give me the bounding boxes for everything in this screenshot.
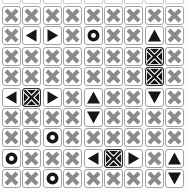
board-tile-r8c9[interactable] — [165, 149, 184, 168]
board-tile-r9c1[interactable] — [2, 169, 21, 188]
board-tile-r6c9[interactable] — [165, 108, 184, 127]
board-tile-r1c2[interactable] — [22, 6, 41, 25]
board-tile-r4c2[interactable] — [22, 67, 41, 86]
board-tile-r7c6[interactable] — [104, 128, 123, 147]
board-tile-r2c2[interactable] — [22, 26, 41, 45]
board-tile-r8c1[interactable] — [2, 149, 21, 168]
board-tile-r3c2[interactable] — [22, 47, 41, 66]
board-tile-r4c4[interactable] — [63, 67, 82, 86]
board-tile-r8c6[interactable] — [104, 149, 123, 168]
board-tile-r5c1[interactable] — [2, 88, 21, 107]
board-tile-r3c3[interactable] — [43, 47, 62, 66]
board-tile-r3c1[interactable] — [2, 47, 21, 66]
inverted-x-icon — [146, 48, 163, 65]
board-tile-r5c9[interactable] — [165, 88, 184, 107]
board-tile-r7c5[interactable] — [84, 128, 103, 147]
board-tile-r9c3[interactable] — [43, 169, 62, 188]
board-tile-r9c4[interactable] — [63, 169, 82, 188]
board-tile-r5c4[interactable] — [63, 88, 82, 107]
board-tile-r1c6[interactable] — [104, 6, 123, 25]
board-tile-r2c1[interactable] — [2, 26, 21, 45]
board-tile-r3c9[interactable] — [165, 47, 184, 66]
board-tile-r3c8[interactable] — [145, 47, 164, 66]
board-tile-r5c8[interactable] — [145, 88, 164, 107]
board-tile-r2c7[interactable] — [124, 26, 143, 45]
board-tile-r4c9[interactable] — [165, 67, 184, 86]
x-icon — [105, 68, 122, 85]
x-icon — [125, 48, 142, 65]
board-tile-r1c3[interactable] — [43, 6, 62, 25]
board-tile-r4c1[interactable] — [2, 67, 21, 86]
x-icon — [105, 129, 122, 146]
circle-icon — [44, 170, 61, 187]
board-tile-r1c4[interactable] — [63, 6, 82, 25]
board-tile-r7c4[interactable] — [63, 128, 82, 147]
board-tile-r9c6[interactable] — [104, 169, 123, 188]
board-tile-r1c5[interactable] — [84, 6, 103, 25]
board-tile-r9c8[interactable] — [145, 169, 164, 188]
board-tile-r6c2[interactable] — [22, 108, 41, 127]
board-tile-r3c5[interactable] — [84, 47, 103, 66]
board-tile-r2c5[interactable] — [84, 26, 103, 45]
board-tile-r7c2[interactable] — [22, 128, 41, 147]
board-tile-r6c6[interactable] — [104, 108, 123, 127]
x-icon — [3, 7, 20, 24]
x-icon — [64, 27, 81, 44]
board-tile-r2c3[interactable] — [43, 26, 62, 45]
board-tile-r8c7[interactable] — [124, 149, 143, 168]
board-tile-r9c7[interactable] — [124, 169, 143, 188]
triangle-right-icon — [125, 150, 142, 167]
board-tile-r8c5[interactable] — [84, 149, 103, 168]
board-tile-r5c3[interactable] — [43, 88, 62, 107]
board-tile-r2c9[interactable] — [165, 26, 184, 45]
board-tile-r6c3[interactable] — [43, 108, 62, 127]
board-tile-r1c9[interactable] — [165, 6, 184, 25]
board-tile-r7c1[interactable] — [2, 128, 21, 147]
board-tile-r7c7[interactable] — [124, 128, 143, 147]
board-tile-r4c8[interactable] — [145, 67, 164, 86]
x-icon — [3, 27, 20, 44]
board-tile-r9c5[interactable] — [84, 169, 103, 188]
board-tile-r3c7[interactable] — [124, 47, 143, 66]
board-tile-r4c3[interactable] — [43, 67, 62, 86]
board-tile-r7c3[interactable] — [43, 128, 62, 147]
board-tile-r2c6[interactable] — [104, 26, 123, 45]
board-tile-r7c8[interactable] — [145, 128, 164, 147]
x-icon — [64, 89, 81, 106]
board-tile-r1c8[interactable] — [145, 6, 164, 25]
board-tile-r6c7[interactable] — [124, 108, 143, 127]
board-tile-r6c1[interactable] — [2, 108, 21, 127]
cropped-tile-stub — [145, 0, 164, 4]
x-icon — [125, 7, 142, 24]
board-tile-r5c7[interactable] — [124, 88, 143, 107]
board-tile-r8c2[interactable] — [22, 149, 41, 168]
x-icon — [85, 7, 102, 24]
board-tile-r8c3[interactable] — [43, 149, 62, 168]
board-tile-r4c5[interactable] — [84, 67, 103, 86]
board-tile-r5c5[interactable] — [84, 88, 103, 107]
board-tile-r3c4[interactable] — [63, 47, 82, 66]
board-tile-r9c9[interactable] — [165, 169, 184, 188]
board-tile-r6c5[interactable] — [84, 108, 103, 127]
board-tile-r8c4[interactable] — [63, 149, 82, 168]
board-tile-r2c8[interactable] — [145, 26, 164, 45]
board-tile-r1c1[interactable] — [2, 6, 21, 25]
cropped-tile-row — [2, 0, 184, 4]
circle-icon — [3, 150, 20, 167]
triangle-up-icon — [85, 89, 102, 106]
board-tile-r6c8[interactable] — [145, 108, 164, 127]
inverted-x-icon — [23, 89, 40, 106]
board-tile-r5c6[interactable] — [104, 88, 123, 107]
board-tile-r3c6[interactable] — [104, 47, 123, 66]
board-tile-r5c2[interactable] — [22, 88, 41, 107]
board-tile-r7c9[interactable] — [165, 128, 184, 147]
board-tile-r8c8[interactable] — [145, 149, 164, 168]
board-tile-r1c7[interactable] — [124, 6, 143, 25]
board-tile-r2c4[interactable] — [63, 26, 82, 45]
board-tile-r4c7[interactable] — [124, 67, 143, 86]
board-tile-r6c4[interactable] — [63, 108, 82, 127]
board-tile-r4c6[interactable] — [104, 67, 123, 86]
x-icon — [105, 7, 122, 24]
board-tile-r9c2[interactable] — [22, 169, 41, 188]
inverted-x-icon — [105, 150, 122, 167]
